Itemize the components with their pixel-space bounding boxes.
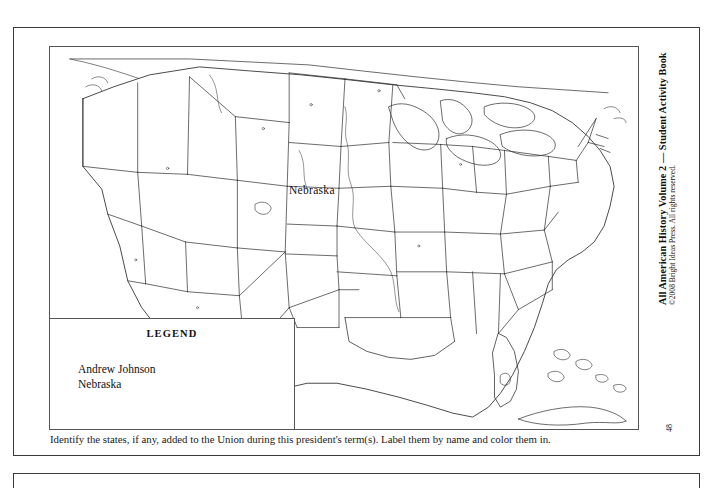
legend-entry-president: Andrew Johnson [78,362,156,377]
worksheet-box: Nebraska LEGEND Andrew Johnson Nebraska … [13,27,700,456]
page-number: 48 [665,424,674,432]
legend-entry-state: Nebraska [78,377,156,392]
credit-title-line: All American History Volume 2 — Student … [657,52,668,305]
legend-entry-list: Andrew Johnson Nebraska [78,362,156,392]
worksheet-page: Nebraska LEGEND Andrew Johnson Nebraska … [0,0,717,488]
us-map-panel[interactable]: Nebraska LEGEND Andrew Johnson Nebraska [49,46,639,430]
credit-copyright-line: ©2008 Bright Ideas Press. All rights res… [668,165,677,305]
legend-box[interactable]: LEGEND Andrew Johnson Nebraska [50,318,295,430]
legend-title: LEGEND [50,328,294,339]
instruction-text: Identify the states, if any, added to th… [50,433,650,445]
credit-sidebar: All American History Volume 2 — Student … [645,58,679,428]
next-worksheet-box [13,473,700,488]
map-label-nebraska: Nebraska [289,184,335,196]
